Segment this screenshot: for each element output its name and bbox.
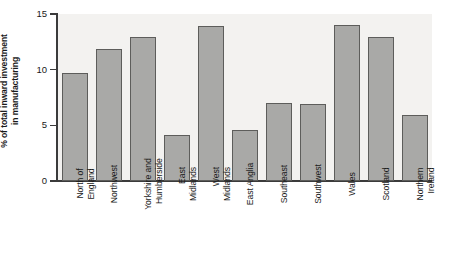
y-axis-tick-label: 15 (36, 9, 47, 19)
x-axis-label-line: Northern (415, 167, 426, 200)
y-axis-tick-label: 5 (42, 120, 47, 130)
y-axis-tick-mark (50, 69, 56, 71)
y-axis-tick-mark (50, 180, 56, 182)
bar (198, 26, 223, 181)
x-axis-label: NorthernIreland (380, 184, 450, 253)
bar-chart: % of total inward investment in manufact… (0, 0, 460, 253)
y-axis-tick-label: 10 (36, 65, 47, 75)
bar (334, 25, 359, 181)
y-axis-tick-mark (50, 13, 56, 15)
x-axis-labels: North ofEnglandNorthwestYorkshire andHum… (58, 184, 432, 253)
y-axis-title-line-1: % of total inward investment (0, 34, 9, 148)
y-axis-tick-mark (50, 125, 56, 127)
x-axis-label-line: Ireland (426, 167, 437, 200)
bar (368, 37, 393, 181)
y-axis-title-line-2: in manufacturing (10, 34, 21, 148)
y-axis-title: % of total inward investment in manufact… (0, 0, 20, 182)
bars-layer (58, 14, 432, 181)
bar (96, 49, 121, 181)
bar (62, 73, 87, 181)
